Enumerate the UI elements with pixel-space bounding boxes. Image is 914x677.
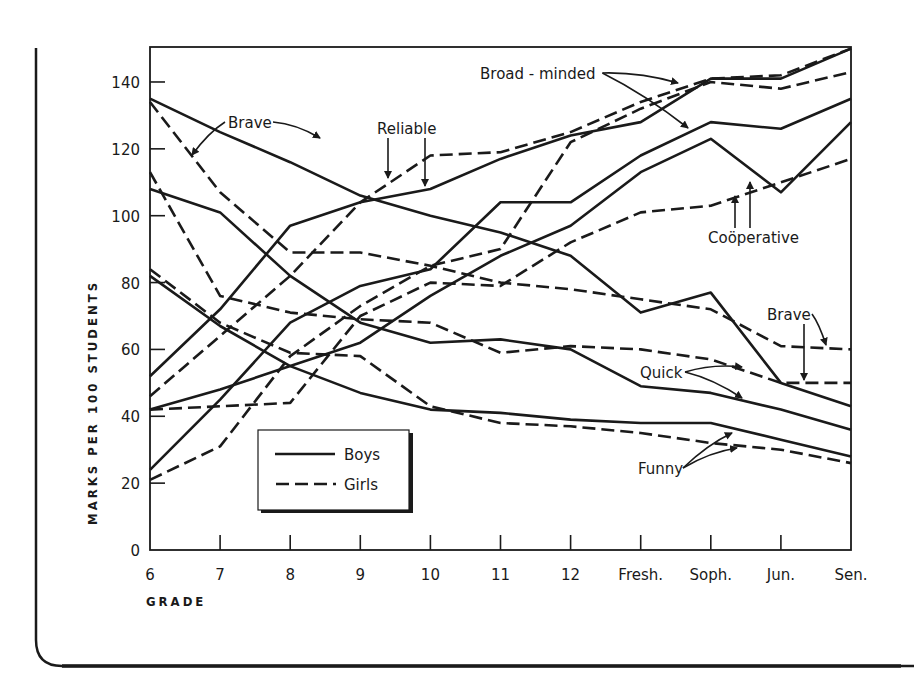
- y-tick-label: 60: [121, 341, 140, 359]
- annotation-label: Brave: [228, 114, 272, 132]
- annotation-arrow-icon: [273, 122, 320, 138]
- x-tick-label: 8: [285, 566, 295, 584]
- x-tick-label: Sen.: [834, 566, 867, 584]
- y-tick-label: 120: [111, 141, 140, 159]
- y-tick-label: 80: [121, 275, 140, 293]
- chart-figure: 020406080100120140 6789101112Fresh.Soph.…: [0, 0, 914, 677]
- annotation-label: Quick: [640, 364, 683, 382]
- annotation-label: Coöperative: [708, 229, 799, 247]
- annotation-label: Brave: [767, 306, 811, 324]
- legend: Boys Girls: [258, 430, 413, 513]
- x-tick-label: 12: [561, 566, 580, 584]
- x-axis-title: GRADE: [146, 594, 206, 609]
- x-tick-label: Soph.: [690, 566, 733, 584]
- series-broad-minded-girls: [150, 72, 851, 480]
- legend-boys-label: Boys: [344, 446, 380, 464]
- y-tick-label: 100: [111, 208, 140, 226]
- series-co-perative-girls: [150, 159, 851, 410]
- x-tick-label: 10: [421, 566, 440, 584]
- annotation-label: Broad - minded: [480, 65, 596, 83]
- x-tick-label: 7: [215, 566, 225, 584]
- series-quick-boys: [150, 189, 851, 430]
- x-tick-label: 9: [356, 566, 366, 584]
- y-axis-title: MARKS PER 100 STUDENTS: [85, 280, 100, 525]
- x-tick-label: 6: [145, 566, 155, 584]
- y-tick-label: 140: [111, 74, 140, 92]
- legend-box: [258, 430, 409, 510]
- x-axis-ticks: 6789101112Fresh.Soph.Jun.Sen.: [145, 535, 867, 584]
- x-tick-label: Jun.: [766, 566, 795, 584]
- y-tick-label: 40: [121, 408, 140, 426]
- annotation-label: Reliable: [377, 120, 436, 138]
- y-tick-label: 0: [130, 542, 140, 560]
- annotation-arrow-icon: [685, 366, 742, 372]
- annotation-label: Funny: [638, 460, 683, 478]
- annotation-arrow-icon: [683, 448, 737, 468]
- annotation-arrow-icon: [812, 314, 826, 345]
- legend-girls-label: Girls: [344, 476, 378, 494]
- line-chart: 020406080100120140 6789101112Fresh.Soph.…: [0, 0, 914, 677]
- series-funny-girls: [150, 269, 851, 463]
- y-axis-ticks: 020406080100120140: [111, 74, 165, 560]
- x-tick-label: 11: [491, 566, 510, 584]
- y-tick-label: 20: [121, 475, 140, 493]
- annotation-arrow-icon: [602, 73, 678, 83]
- series-brave-girls: [150, 102, 851, 349]
- x-tick-label: Fresh.: [618, 566, 663, 584]
